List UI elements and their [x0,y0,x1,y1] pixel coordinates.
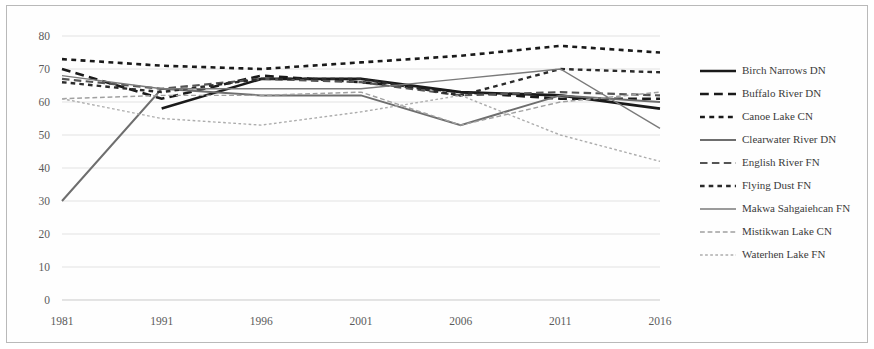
series-line-2 [62,46,660,69]
chart-figure: 01020304050607080 1981199119962001200620… [0,0,874,349]
x-tick-label-2001: 2001 [350,315,373,327]
legend-label-4: English River FN [742,156,820,168]
x-tick-label-1981: 1981 [51,315,74,327]
y-tick-label-50: 50 [39,129,51,141]
legend-item-0: Birch Narrows DN [700,64,826,76]
x-tick-label-2011: 2011 [549,315,572,327]
legend-label-5: Flying Dust FN [742,179,811,191]
y-tick-label-80: 80 [39,30,51,42]
legend-item-2: Canoe Lake CN [700,110,813,122]
legend-label-3: Clearwater River DN [742,133,836,145]
legend-item-5: Flying Dust FN [700,179,811,191]
y-tick-label-20: 20 [39,228,51,240]
line-chart: 01020304050607080 1981199119962001200620… [0,0,874,349]
legend-label-6: Makwa Sahgaiehcan FN [742,202,850,214]
x-tick-label-1991: 1991 [150,315,173,327]
series-line-8 [62,95,660,161]
legend-item-6: Makwa Sahgaiehcan FN [700,202,850,214]
chart-legend: Birch Narrows DNBuffalo River DNCanoe La… [700,64,850,260]
legend-item-4: English River FN [700,156,820,168]
series-line-3 [62,89,660,201]
x-axis-tick-labels: 1981199119962001200620112016 [51,315,672,327]
y-axis-tick-labels: 01020304050607080 [39,30,51,306]
x-tick-label-2006: 2006 [449,315,472,327]
y-tick-label-70: 70 [39,63,51,75]
legend-label-8: Waterhen Lake FN [742,248,825,260]
legend-label-1: Buffalo River DN [742,87,821,99]
legend-label-2: Canoe Lake CN [742,110,813,122]
series-line-1 [62,69,660,99]
x-tick-label-2016: 2016 [649,315,672,327]
x-tick-label-1996: 1996 [250,315,273,327]
y-tick-label-10: 10 [39,261,51,273]
y-tick-label-60: 60 [39,96,51,108]
y-tick-label-40: 40 [39,162,51,174]
legend-label-7: Mistikwan Lake CN [742,225,832,237]
legend-item-1: Buffalo River DN [700,87,821,99]
y-tick-label-30: 30 [39,195,51,207]
y-tick-label-0: 0 [44,294,50,306]
legend-item-8: Waterhen Lake FN [700,248,825,260]
legend-label-0: Birch Narrows DN [742,64,826,76]
legend-item-7: Mistikwan Lake CN [700,225,832,237]
legend-item-3: Clearwater River DN [700,133,836,145]
